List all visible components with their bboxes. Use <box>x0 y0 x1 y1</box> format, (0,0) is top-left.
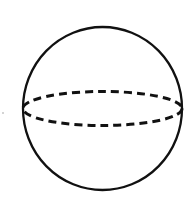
stray-speck <box>2 112 3 113</box>
equator-dashed <box>23 92 182 126</box>
sphere-diagram <box>0 0 194 208</box>
sphere-outline <box>23 27 182 190</box>
